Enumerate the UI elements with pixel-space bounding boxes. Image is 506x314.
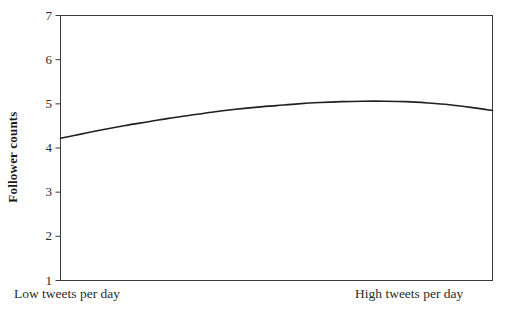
plot-area	[0, 0, 506, 314]
plot-border	[61, 16, 493, 281]
data-series-group	[61, 101, 493, 138]
x-axis-label-high: High tweets per day	[355, 286, 463, 301]
y-axis-ticks	[56, 16, 61, 281]
plot-frame	[61, 16, 493, 281]
chart-figure: Follower counts 1234567 Low tweets per d…	[0, 0, 506, 314]
data-line-follower-counts	[61, 101, 493, 138]
x-axis-label-low: Low tweets per day	[14, 286, 120, 301]
